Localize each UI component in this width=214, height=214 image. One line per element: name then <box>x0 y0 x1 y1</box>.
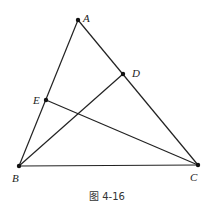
label-c: C <box>190 171 198 183</box>
point-c <box>196 163 200 167</box>
triangle-figure: A B C D E 图 4-16 <box>0 0 214 214</box>
segment-bc <box>19 165 198 166</box>
figure-caption: 图 4-16 <box>89 191 125 202</box>
point-a <box>76 18 80 22</box>
label-a: A <box>82 12 90 24</box>
point-d <box>121 72 125 76</box>
segment-bd <box>19 74 123 166</box>
segment-ce <box>46 100 198 165</box>
label-b: B <box>12 172 19 184</box>
label-d: D <box>131 67 140 79</box>
segment-ab <box>19 20 78 166</box>
segment-ac <box>78 20 198 165</box>
label-e: E <box>32 94 40 106</box>
point-b <box>17 164 21 168</box>
point-e <box>44 98 48 102</box>
